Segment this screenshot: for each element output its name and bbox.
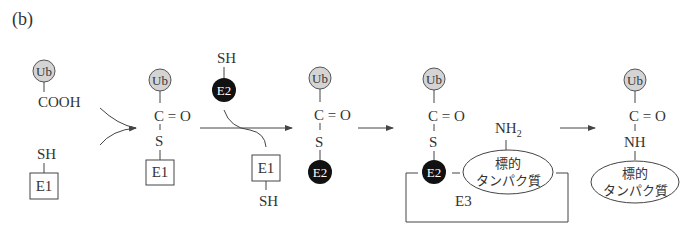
svg-text:標的: 標的 <box>622 166 648 181</box>
svg-text:タンパク質: タンパク質 <box>603 183 668 198</box>
svg-text:E1: E1 <box>152 164 169 180</box>
svg-text:E2: E2 <box>427 165 441 180</box>
svg-text:E2: E2 <box>313 165 327 180</box>
step1-e1-sh: SH E1 <box>30 146 58 199</box>
step5-ub-target: Ub C = O NH 標的 タンパク質 <box>591 69 679 203</box>
svg-text:S: S <box>429 134 437 150</box>
svg-text:E1: E1 <box>36 178 53 194</box>
svg-text:C = O: C = O <box>629 108 666 124</box>
svg-text:E2: E2 <box>217 83 231 98</box>
svg-text:Ub: Ub <box>36 64 52 79</box>
svg-text:Ub: Ub <box>312 71 328 86</box>
svg-text:S: S <box>155 133 163 149</box>
arrow-converge-1 <box>100 108 136 145</box>
arrow-transfer-e1-to-e2 <box>200 110 292 147</box>
step2-ub-s-e1: Ub C = O S E1 <box>146 69 191 185</box>
svg-text:Ub: Ub <box>426 72 442 87</box>
e3-label: E3 <box>455 193 472 209</box>
svg-text:Ub: Ub <box>152 73 168 88</box>
svg-text:Ub: Ub <box>627 73 643 88</box>
svg-text:C = O: C = O <box>314 107 351 123</box>
svg-text:標的: 標的 <box>495 156 521 171</box>
svg-text:SH: SH <box>217 50 236 66</box>
step1-ub-cooh: Ub COOH <box>33 60 81 110</box>
step3-ub-s-e2: Ub C = O S E2 <box>308 67 351 184</box>
ubiquitination-diagram: (b) Ub COOH SH E1 Ub C = O S E1 SH E <box>0 0 692 238</box>
svg-text:C = O: C = O <box>154 108 191 124</box>
panel-label: (b) <box>12 9 33 30</box>
step4-e2-e3-complex: Ub C = O S E2 E3 NH2 標的 タンパク質 <box>406 68 568 222</box>
svg-text:E1: E1 <box>258 160 275 176</box>
svg-text:C = O: C = O <box>428 108 465 124</box>
cooh-label: COOH <box>38 94 81 110</box>
svg-text:SH: SH <box>259 193 278 209</box>
e2-sh-reactant: SH E2 <box>212 50 236 102</box>
svg-text:NH: NH <box>624 134 646 150</box>
nh2-label: NH2 <box>495 120 522 139</box>
svg-text:S: S <box>315 134 323 150</box>
e1-sh-product: E1 SH <box>252 155 280 209</box>
svg-text:SH: SH <box>37 146 56 162</box>
svg-text:タンパク質: タンパク質 <box>476 173 541 188</box>
